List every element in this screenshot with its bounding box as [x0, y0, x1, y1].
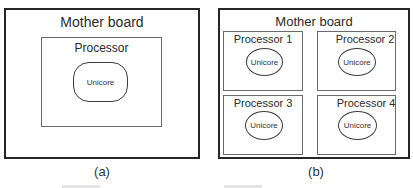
unicore-a: Unicore	[73, 62, 128, 102]
processor-a-label: Processor	[41, 41, 162, 55]
cropped-caption-fragment-right	[224, 185, 262, 188]
unicore-3: Unicore	[245, 111, 283, 140]
caption-a: (a)	[82, 164, 122, 179]
unicore-4: Unicore	[338, 111, 377, 140]
motherboard-b-label: Mother board	[218, 14, 410, 29]
caption-b: (b)	[296, 164, 336, 179]
motherboard-a-label: Mother board	[4, 14, 200, 30]
unicore-2: Unicore	[338, 48, 376, 76]
processor-2-label: Processor 2	[329, 33, 401, 45]
processor-3-label: Processor 3	[223, 97, 303, 109]
processor-4-label: Processor 4	[330, 97, 402, 109]
cropped-caption-fragment-left	[62, 185, 100, 188]
processor-1-label: Processor 1	[223, 33, 303, 45]
unicore-1: Unicore	[246, 48, 283, 76]
